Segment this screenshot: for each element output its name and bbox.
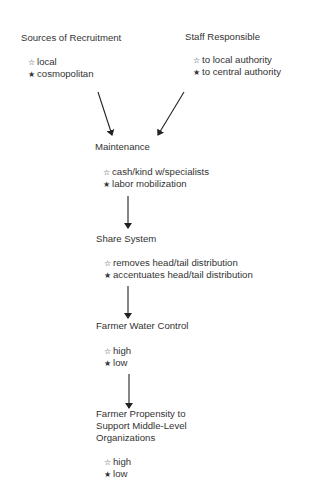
node-staff-item: ★to central authority (193, 66, 281, 79)
node-propensity-item: ★low (104, 468, 127, 481)
filled-star-icon: ★ (28, 69, 37, 81)
arrow-recruitment-to-maintenance (98, 92, 112, 135)
filled-star-icon: ★ (104, 358, 113, 370)
filled-star-icon: ★ (104, 469, 113, 481)
arrow-staff-to-maintenance (158, 92, 184, 135)
node-share-title: Share System (96, 233, 156, 244)
node-propensity-title-line: Support Middle-Level (96, 420, 187, 431)
filled-star-icon: ★ (104, 270, 113, 282)
node-recruitment-title: Sources of Recruitment (21, 32, 121, 43)
filled-star-icon: ★ (103, 179, 112, 191)
node-maintenance-title: Maintenance (95, 141, 150, 152)
node-recruitment-item: ★cosmopolitan (28, 68, 94, 81)
filled-star-icon: ★ (193, 67, 202, 79)
node-propensity-title-line: Organizations (96, 432, 155, 443)
node-water-item: ★low (104, 357, 127, 370)
node-maintenance-item: ★labor mobilization (103, 178, 187, 191)
node-propensity-title-line: Farmer Propensity to (96, 408, 186, 419)
node-share-item: ★accentuates head/tail distribution (104, 269, 253, 282)
node-water-title: Farmer Water Control (96, 320, 188, 331)
node-staff-title: Staff Responsible (185, 31, 260, 42)
